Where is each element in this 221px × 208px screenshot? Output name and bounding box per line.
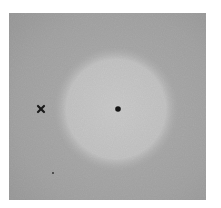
center-dot — [115, 106, 121, 112]
speck — [52, 172, 54, 174]
photograph — [9, 13, 206, 200]
photo-canvas — [9, 13, 206, 200]
